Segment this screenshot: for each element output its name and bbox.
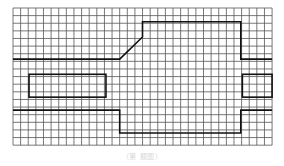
left-rectangle [29,74,106,97]
grid-diagram [0,0,284,166]
figure-caption: （第 题图） [0,151,284,161]
